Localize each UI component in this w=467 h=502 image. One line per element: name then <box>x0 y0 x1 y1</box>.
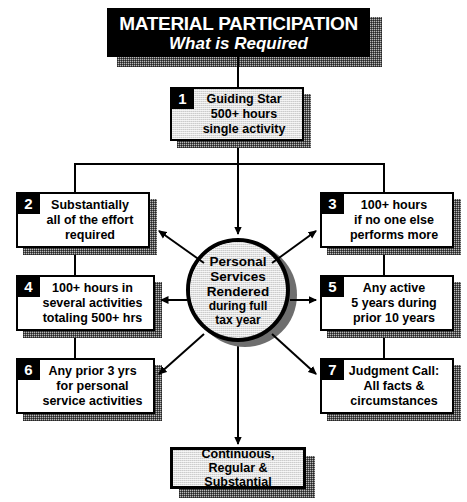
bottom-box-label: Continuous, Regular & Substantial <box>202 447 275 489</box>
arrow-circle-to-box6 <box>159 334 204 374</box>
connector-bus-to-box3 <box>383 163 385 192</box>
flow-box-6-label: Any prior 3 yrs for personal service act… <box>28 364 142 409</box>
connector-bus <box>74 163 385 165</box>
title-banner: MATERIAL PARTICIPATION What is Required <box>107 8 370 57</box>
diagram-canvas: MATERIAL PARTICIPATION What is Required … <box>0 0 467 502</box>
flow-box-5-label: Any active 5 years during prior 10 years <box>337 281 436 326</box>
flow-box-7[interactable]: Judgment Call: All facts & circumstances… <box>320 358 454 414</box>
connector-bus-to-box2 <box>74 163 76 192</box>
flow-box-7-number: 7 <box>321 359 344 380</box>
flow-box-3-number: 3 <box>321 193 344 214</box>
center-circle-secondary-label: during full tax year <box>209 299 268 327</box>
center-circle[interactable]: Personal Services Rendered during full t… <box>186 238 290 342</box>
flow-box-2[interactable]: Substantially all of the effort required… <box>16 192 150 248</box>
arrow-circle-to-box7 <box>272 334 316 374</box>
flow-box-3[interactable]: 100+ hours if no one else performs more … <box>320 192 454 248</box>
flow-box-4[interactable]: 100+ hours in several activities totalin… <box>16 275 155 331</box>
flow-box-5-number: 5 <box>321 276 344 297</box>
flow-box-4-label: 100+ hours in several activities totalin… <box>28 281 142 326</box>
flow-box-6[interactable]: Any prior 3 yrs for personal service act… <box>16 358 155 414</box>
title-line-1: MATERIAL PARTICIPATION <box>119 13 358 34</box>
connector-title-to-box1 <box>237 57 239 87</box>
bottom-box[interactable]: Continuous, Regular & Substantial <box>170 447 306 489</box>
flow-box-6-number: 6 <box>17 359 40 380</box>
center-circle-primary-label: Personal Services Rendered <box>207 254 269 299</box>
flow-box-5[interactable]: Any active 5 years during prior 10 years… <box>320 275 454 331</box>
flow-box-1-number: 1 <box>171 88 194 109</box>
connector-bus-to-circle <box>237 163 239 229</box>
flow-box-2-label: Substantially all of the effort required <box>33 198 134 243</box>
flow-box-2-number: 2 <box>17 193 40 214</box>
connector-circle-to-bottom <box>237 342 239 437</box>
flow-box-3-label: 100+ hours if no one else performs more <box>336 198 438 243</box>
title-line-2: What is Required <box>169 34 308 53</box>
flow-box-1[interactable]: Guiding Star 500+ hours single activity … <box>170 87 304 141</box>
flow-box-7-label: Judgment Call: All facts & circumstances <box>335 364 439 409</box>
flow-box-1-label: Guiding Star 500+ hours single activity <box>189 92 286 137</box>
flow-box-4-number: 4 <box>17 276 40 297</box>
